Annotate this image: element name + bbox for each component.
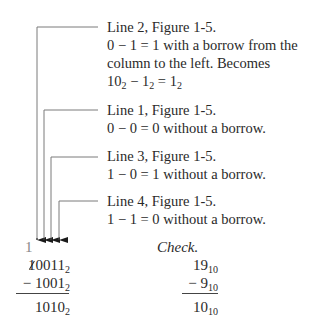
minuend: 100112 xyxy=(16,256,70,274)
annotation-line3: Line 3, Figure 1-5. 1 − 0 = 1 without a … xyxy=(107,147,266,183)
leader-line1 xyxy=(44,110,98,240)
annotation-title: Line 3, Figure 1-5. xyxy=(107,147,266,165)
sum-rule xyxy=(16,293,69,294)
annotation-line1: Line 1, Figure 1-5. 0 − 0 = 0 without a … xyxy=(107,101,266,137)
annotation-title: Line 1, Figure 1-5. xyxy=(107,101,266,119)
annotation-text: column to the left. Becomes xyxy=(107,54,298,72)
subtrahend: − 10012 xyxy=(12,274,70,292)
result: 10102 xyxy=(16,298,70,316)
check-result: 1010 xyxy=(170,298,218,316)
annotation-equation: 102 − 12 = 12 xyxy=(107,72,298,90)
struck-borrowed-digit: 1 xyxy=(28,256,36,274)
annotation-text: 0 − 0 = 0 without a borrow. xyxy=(107,119,266,137)
leader-line4 xyxy=(59,201,98,240)
annotation-title: Line 4, Figure 1-5. xyxy=(107,192,266,210)
check-rule xyxy=(182,293,218,294)
borrow-digit: 1 xyxy=(25,238,33,256)
leader-line2 xyxy=(37,27,98,240)
minus-sign: − xyxy=(23,275,31,291)
annotation-text: 1 − 0 = 1 without a borrow. xyxy=(107,165,266,183)
minus-sign: − xyxy=(188,275,196,291)
annotation-title: Line 2, Figure 1-5. xyxy=(107,18,298,36)
check-subtrahend: − 910 xyxy=(170,274,218,292)
check-minuend: 1910 xyxy=(170,256,218,274)
annotation-text: 0 − 1 = 1 with a borrow from the xyxy=(107,36,298,54)
annotation-line2: Line 2, Figure 1-5. 0 − 1 = 1 with a bor… xyxy=(107,18,298,90)
annotation-line4: Line 4, Figure 1-5. 1 − 1 = 0 without a … xyxy=(107,192,266,228)
leader-line3 xyxy=(51,157,98,240)
annotation-text: 1 − 1 = 0 without a borrow. xyxy=(107,210,266,228)
check-label: Check. xyxy=(157,238,198,256)
